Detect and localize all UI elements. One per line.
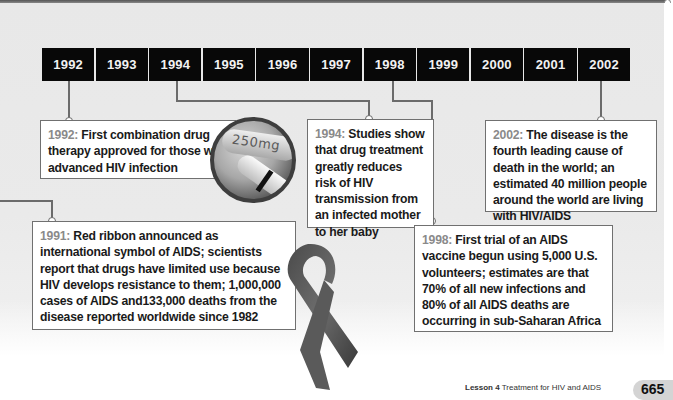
connector-1991-across [0,200,52,202]
event-year: 1994: [315,127,345,141]
event-year: 1991: [40,229,70,243]
year-1996: 1996 [256,48,308,81]
event-text: First trial of an AIDS vaccine begun usi… [422,233,601,328]
page-number: 665 [633,380,673,400]
year-2000: 2000 [471,48,523,81]
event-text: Studies show that drug treatment greatly… [315,127,425,239]
connector-1998-across [392,100,432,102]
connector-1992 [68,81,70,120]
year-2002: 2002 [578,48,630,81]
year-1998: 1998 [364,48,416,81]
event-year: 2002: [493,128,523,142]
year-1992: 1992 [42,48,94,81]
event-text: The disease is the fourth leading cause … [493,128,647,223]
connector-1998-down [392,81,394,101]
lesson-label: Lesson 4 [465,383,500,392]
page-edge [664,3,671,353]
event-year: 1992: [48,128,78,142]
year-1997: 1997 [310,48,362,81]
year-1999: 1999 [417,48,469,81]
event-card-1998: 1998: First trial of an AIDS vaccine beg… [414,225,613,332]
page-footer: Lesson 4 Treatment for HIV and AIDS [465,383,601,392]
connector-2002 [600,81,602,119]
connector-1994-across [176,100,369,102]
year-1994: 1994 [149,48,201,81]
awareness-ribbon-icon [280,240,360,390]
event-card-1994: 1994: Studies show that drug treatment g… [307,119,434,228]
year-2001: 2001 [524,48,576,81]
event-card-2002: 2002: The disease is the fourth leading … [485,120,657,212]
year-1995: 1995 [203,48,255,81]
event-text: Red ribbon announced as international sy… [40,229,281,324]
top-rule [0,0,668,3]
event-card-1992: 1992: First combination drug therapy app… [40,120,236,179]
pills-photo: 250mg [210,117,296,203]
year-1993: 1993 [96,48,148,81]
event-card-1991: 1991: Red ribbon announced as internatio… [32,221,296,330]
lesson-title: Treatment for HIV and AIDS [502,383,601,392]
year-bar: 1992 1993 1994 1995 1996 1997 1998 1999 … [42,48,632,81]
connector-1994-down [176,81,178,101]
event-year: 1998: [422,233,452,247]
